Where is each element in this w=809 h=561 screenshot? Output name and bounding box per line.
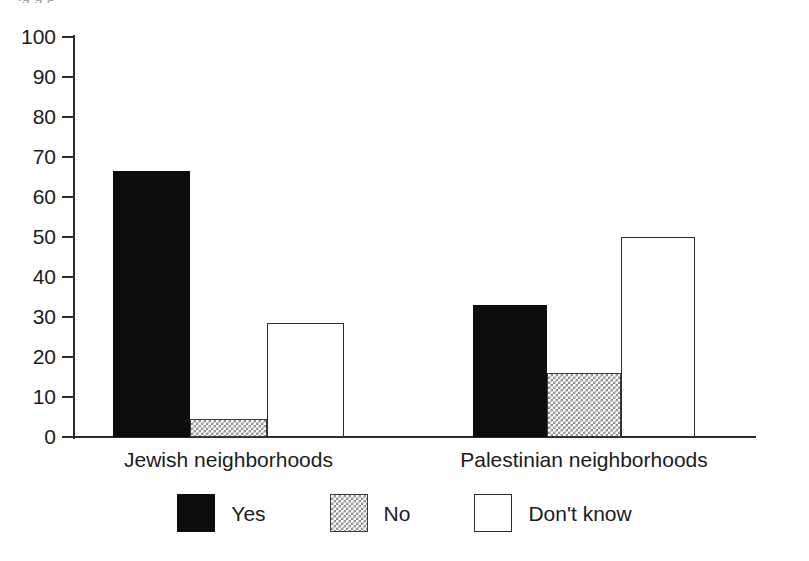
y-tick-label: 80	[10, 106, 56, 127]
y-tick-label: 50	[10, 226, 56, 247]
y-tick-label-wrap: 20	[0, 346, 56, 367]
cropped-caption-sliver: ig g p	[18, 0, 778, 3]
y-tick-label-wrap: 90	[0, 66, 56, 87]
legend-label-dont-know: Don't know	[528, 503, 631, 524]
legend-swatch-dont-know-icon	[474, 494, 512, 532]
legend-label-no: No	[384, 503, 411, 524]
y-tick-label: 30	[10, 306, 56, 327]
legend-label-yes: Yes	[231, 503, 265, 524]
y-tick-label-wrap: 100	[0, 26, 56, 47]
y-tick-mark	[62, 76, 73, 78]
bar-no	[547, 373, 621, 437]
bar-no	[190, 419, 267, 437]
category-label: Palestinian neighborhoods	[384, 448, 784, 472]
plot-area	[73, 37, 755, 437]
y-tick-label-wrap: 40	[0, 266, 56, 287]
bar-yes	[473, 305, 547, 437]
y-tick-label-wrap: 80	[0, 106, 56, 127]
legend-item-dont-know: Don't know	[474, 494, 631, 532]
y-tick-label-wrap: 70	[0, 146, 56, 167]
y-tick-label: 60	[10, 186, 56, 207]
y-tick-label: 100	[10, 26, 56, 47]
category-label: Jewish neighborhoods	[29, 448, 429, 472]
y-tick-mark	[62, 396, 73, 398]
y-tick-label: 90	[10, 66, 56, 87]
legend-swatch-yes-icon	[177, 494, 215, 532]
y-tick-mark	[62, 316, 73, 318]
y-tick-label-wrap: 50	[0, 226, 56, 247]
bar-chart-figure: ig g p 1009080706050403020100 Jewish nei…	[0, 0, 809, 561]
y-tick-label-wrap: 30	[0, 306, 56, 327]
y-tick-mark	[62, 356, 73, 358]
y-tick-mark	[62, 196, 73, 198]
legend-swatch-no-icon	[330, 494, 368, 532]
y-tick-label: 40	[10, 266, 56, 287]
bar-dk	[267, 323, 344, 437]
chart-legend: Yes No Don't know	[0, 494, 809, 532]
y-tick-label: 20	[10, 346, 56, 367]
y-tick-mark	[62, 436, 73, 438]
bar-dk	[621, 237, 695, 437]
y-tick-mark	[62, 236, 73, 238]
y-tick-mark	[62, 116, 73, 118]
y-tick-label: 0	[10, 426, 56, 447]
y-tick-label: 70	[10, 146, 56, 167]
y-tick-label-wrap: 60	[0, 186, 56, 207]
legend-item-yes: Yes	[177, 494, 265, 532]
y-tick-label-wrap: 10	[0, 386, 56, 407]
bar-yes	[113, 171, 190, 437]
legend-item-no: No	[330, 494, 411, 532]
y-tick-mark	[62, 36, 73, 38]
y-tick-label: 10	[10, 386, 56, 407]
y-tick-mark	[62, 276, 73, 278]
y-tick-label-wrap: 0	[0, 426, 56, 447]
y-tick-mark	[62, 156, 73, 158]
